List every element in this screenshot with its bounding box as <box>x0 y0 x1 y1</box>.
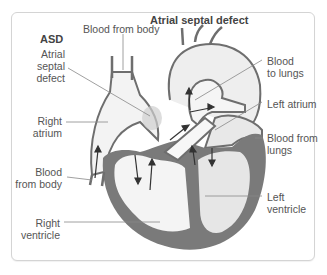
septal-defect-shadow <box>142 106 162 130</box>
label-blood-from-lungs: Blood from lungs <box>267 132 318 156</box>
asd-heading: ASD <box>40 33 63 45</box>
label-right-atrium: Right atrium <box>20 115 62 139</box>
label-left-atrium: Left atrium <box>267 98 317 110</box>
label-blood-from-body-bottom: Blood from body <box>12 166 62 190</box>
label-right-ventricle: Right ventricle <box>12 217 60 241</box>
label-left-ventricle: Left ventricle <box>267 191 306 215</box>
aorta-branches <box>182 25 222 45</box>
label-atrial-septal-defect: Atrial septal defect <box>25 48 65 84</box>
label-blood-to-lungs: Blood to lungs <box>267 55 304 79</box>
diagram-title: Atrial septal defect <box>150 14 248 26</box>
label-blood-from-body-top: Blood from body <box>83 23 159 35</box>
